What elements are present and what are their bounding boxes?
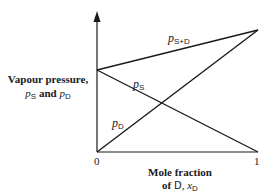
x-axis-label-line1: Mole fraction xyxy=(140,166,220,179)
x-tick-0: 0 xyxy=(94,156,100,167)
x-tick-1: 1 xyxy=(254,156,260,167)
label-p-s-plus-d: pS+D xyxy=(168,32,190,48)
y-axis-label-line1: Vapour pressure, xyxy=(2,72,94,86)
label-p-d: pD xyxy=(112,117,124,133)
label-p-s: pS xyxy=(133,78,144,94)
y-axis-label: Vapour pressure, pS and pD xyxy=(2,72,94,104)
x-axis-label-line2: of D, xD xyxy=(140,179,220,195)
curve-p-d xyxy=(97,30,258,152)
y-axis-label-line2: pS and pD xyxy=(2,86,94,104)
curve-p-s xyxy=(97,70,258,152)
x-axis-label: Mole fraction of D, xD xyxy=(140,166,220,195)
y-axis-arrow-icon xyxy=(94,11,101,22)
vapour-pressure-diagram: Vapour pressure, pS and pD pS+D pS pD 0 … xyxy=(0,0,274,195)
